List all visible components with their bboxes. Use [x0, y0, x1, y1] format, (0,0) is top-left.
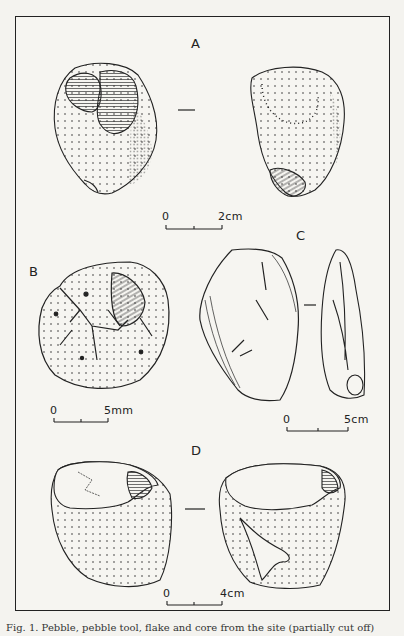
scale-bar-d [167, 601, 222, 605]
panel-b-pebble [39, 262, 169, 388]
scale-c-zero: 0 [283, 413, 290, 426]
panel-label-c: C [296, 228, 305, 243]
panel-label-a: A [191, 36, 200, 51]
scale-c-end: 5cm [344, 413, 369, 426]
scale-bar-b [54, 418, 108, 422]
scale-d-end: 4cm [220, 587, 245, 600]
panel-a-right-view [251, 67, 345, 196]
scale-b-end: 5mm [104, 404, 133, 417]
artifact-drawings [0, 0, 404, 636]
scale-bar-a [166, 225, 222, 229]
panel-a-left-view [54, 63, 157, 194]
scale-bar-c [287, 427, 348, 431]
figure-caption: Fig. 1. Pebble, pebble tool, flake and c… [6, 622, 402, 633]
scale-a-end: 2cm [218, 210, 243, 223]
scale-d-zero: 0 [163, 587, 170, 600]
panel-d-right-view [219, 464, 345, 589]
scale-b-zero: 0 [50, 404, 57, 417]
panel-c-flake-side [321, 250, 364, 398]
scale-a-zero: 0 [162, 210, 169, 223]
panel-c-flake [200, 249, 299, 401]
panel-label-d: D [191, 443, 201, 458]
panel-label-b: B [29, 264, 38, 279]
panel-d-left-view [51, 462, 171, 587]
